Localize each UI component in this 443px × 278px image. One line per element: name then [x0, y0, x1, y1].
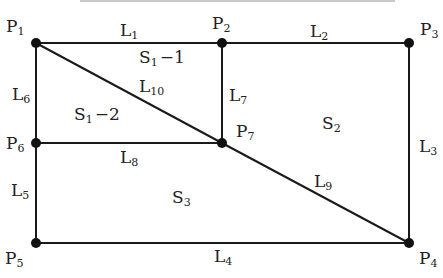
- label-l5: L5: [11, 180, 29, 202]
- label-p2: P2: [212, 13, 230, 35]
- region-label-s1-1: S1−1: [139, 47, 185, 69]
- label-l9: L9: [314, 171, 332, 193]
- label-l8: L8: [120, 147, 138, 169]
- region-label-s2: S2: [322, 113, 341, 135]
- label-l1: L1: [120, 20, 138, 42]
- label-l7: L7: [229, 85, 247, 107]
- point-p3: [404, 38, 414, 48]
- label-p3: P3: [420, 19, 438, 41]
- point-p4: [404, 238, 414, 248]
- point-p7: [217, 138, 227, 148]
- label-p1: P1: [6, 16, 24, 38]
- label-p6: P6: [6, 133, 24, 155]
- point-p1: [31, 38, 41, 48]
- region-label-s3: S3: [172, 187, 191, 209]
- point-p6: [31, 138, 41, 148]
- partition-diagram: L1L2L3L4L5L6L7L8L9L10P1P2P3P4P5P6P7S1−1S…: [0, 0, 443, 278]
- label-p7: P7: [236, 121, 254, 143]
- label-l2: L2: [310, 21, 328, 43]
- line-l10: [36, 43, 222, 143]
- region-label-s1-2: S1−2: [74, 104, 120, 126]
- label-l10: L10: [139, 76, 164, 98]
- label-p4: P4: [419, 248, 437, 270]
- point-p5: [31, 238, 41, 248]
- label-l6: L6: [12, 84, 30, 106]
- point-p2: [217, 38, 227, 48]
- label-l3: L3: [419, 136, 437, 158]
- line-l9: [222, 143, 409, 243]
- label-l4: L4: [214, 246, 232, 268]
- label-p5: P5: [5, 248, 23, 270]
